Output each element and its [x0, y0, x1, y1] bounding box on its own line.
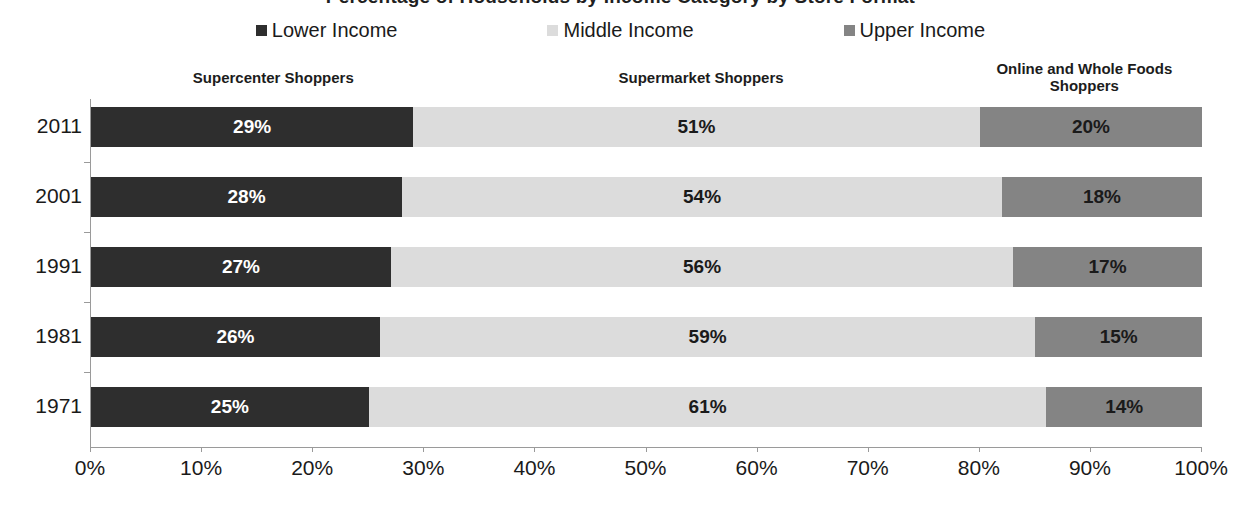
bar-value-label: 27% — [222, 256, 260, 278]
bar-segment-lower-income[interactable]: 29% — [91, 107, 413, 147]
y-axis-tick — [84, 162, 90, 163]
bar-value-label: 28% — [228, 186, 266, 208]
bar-value-label: 51% — [677, 116, 715, 138]
x-axis-tick-label: 50% — [624, 456, 666, 480]
x-axis-tick — [868, 447, 869, 452]
y-axis-tick-label: 1991 — [10, 254, 82, 278]
bar-row: 25%61%14% — [91, 387, 1202, 427]
bar-segment-middle-income[interactable]: 51% — [413, 107, 980, 147]
x-axis-labels: 0%10%20%30%40%50%60%70%80%90%100% — [90, 456, 1202, 486]
x-axis-tick-label: 60% — [736, 456, 778, 480]
y-axis-tick-label: 2011 — [10, 114, 82, 138]
bar-segment-upper-income[interactable]: 20% — [980, 107, 1202, 147]
bar-row: 28%54%18% — [91, 177, 1202, 217]
x-axis-tick — [423, 447, 424, 452]
plot-area: 29%51%20%28%54%18%27%56%17%26%59%15%25%6… — [90, 99, 1202, 447]
x-axis-tick — [646, 447, 647, 452]
x-axis-tick — [90, 447, 91, 452]
bar-segment-lower-income[interactable]: 26% — [91, 317, 380, 357]
x-axis-tick — [1090, 447, 1091, 452]
x-axis-tick-label: 100% — [1174, 456, 1228, 480]
group-header-label: Supercenter Shoppers — [123, 69, 423, 86]
bar-segment-middle-income[interactable]: 61% — [369, 387, 1047, 427]
legend-swatch-lower-income — [256, 25, 267, 36]
bar-value-label: 15% — [1100, 326, 1138, 348]
bar-value-label: 26% — [216, 326, 254, 348]
legend-swatch-upper-income — [844, 25, 855, 36]
bar-value-label: 17% — [1089, 256, 1127, 278]
bar-row: 29%51%20% — [91, 107, 1202, 147]
y-axis-labels: 20112001199119811971 — [6, 99, 82, 447]
bar-segment-upper-income[interactable]: 14% — [1046, 387, 1202, 427]
bar-segment-lower-income[interactable]: 25% — [91, 387, 369, 427]
x-axis-tick-label: 70% — [847, 456, 889, 480]
x-axis-tick — [1201, 447, 1202, 452]
legend-label-lower-income: Lower Income — [272, 19, 398, 42]
bar-value-label: 56% — [683, 256, 721, 278]
x-axis-tick — [757, 447, 758, 452]
x-axis-tick-label: 80% — [958, 456, 1000, 480]
bar-segment-lower-income[interactable]: 27% — [91, 247, 391, 287]
x-axis-tick-label: 30% — [402, 456, 444, 480]
y-axis-tick — [84, 372, 90, 373]
bar-row: 26%59%15% — [91, 317, 1202, 357]
x-axis-tick-label: 10% — [180, 456, 222, 480]
bar-row: 27%56%17% — [91, 247, 1202, 287]
bar-segment-upper-income[interactable]: 18% — [1002, 177, 1202, 217]
chart-title: Percentage of Households by Income Categ… — [0, 0, 1241, 8]
y-axis-tick-label: 1981 — [10, 324, 82, 348]
y-axis-tick — [84, 232, 90, 233]
bar-value-label: 61% — [689, 396, 727, 418]
legend-swatch-middle-income — [547, 25, 558, 36]
bar-segment-middle-income[interactable]: 54% — [402, 177, 1002, 217]
bar-segment-upper-income[interactable]: 15% — [1035, 317, 1202, 357]
bar-value-label: 54% — [683, 186, 721, 208]
x-axis-tick-label: 20% — [291, 456, 333, 480]
bar-segment-lower-income[interactable]: 28% — [91, 177, 402, 217]
legend-item-middle-income[interactable]: Middle Income — [547, 19, 693, 42]
bar-segment-middle-income[interactable]: 56% — [391, 247, 1013, 287]
y-axis-tick — [84, 302, 90, 303]
bar-segment-middle-income[interactable]: 59% — [380, 317, 1035, 357]
x-axis-tick-label: 40% — [513, 456, 555, 480]
bar-segment-upper-income[interactable]: 17% — [1013, 247, 1202, 287]
chart-legend: Lower Income Middle Income Upper Income — [0, 19, 1241, 42]
bar-value-label: 25% — [211, 396, 249, 418]
bar-value-label: 18% — [1083, 186, 1121, 208]
group-header-label: Online and Whole Foods Shoppers — [979, 60, 1189, 94]
legend-item-upper-income[interactable]: Upper Income — [844, 19, 986, 42]
x-axis-tick-label: 0% — [75, 456, 105, 480]
legend-item-lower-income[interactable]: Lower Income — [256, 19, 398, 42]
x-axis-tick — [979, 447, 980, 452]
x-axis-tick — [201, 447, 202, 452]
x-axis-tick-label: 90% — [1069, 456, 1111, 480]
y-axis-tick-label: 2001 — [10, 184, 82, 208]
x-axis-tick — [534, 447, 535, 452]
bar-value-label: 59% — [689, 326, 727, 348]
group-header-label: Supermarket Shoppers — [551, 69, 851, 86]
legend-label-middle-income: Middle Income — [563, 19, 693, 42]
bar-value-label: 14% — [1105, 396, 1143, 418]
group-header-row: Supercenter ShoppersSupermarket Shoppers… — [0, 60, 1241, 98]
bar-value-label: 29% — [233, 116, 271, 138]
bar-value-label: 20% — [1072, 116, 1110, 138]
legend-label-upper-income: Upper Income — [860, 19, 986, 42]
x-axis-tick — [312, 447, 313, 452]
y-axis-tick-label: 1971 — [10, 394, 82, 418]
